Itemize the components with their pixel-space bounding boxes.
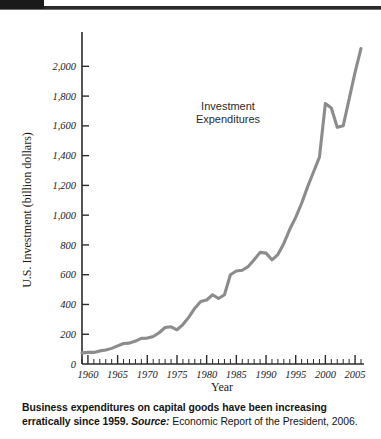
x-tick-label: 1980 xyxy=(196,369,218,380)
top-left-black-block xyxy=(0,0,44,9)
x-tick-label: 1960 xyxy=(77,369,99,380)
y-axis-tick-labels: 02004006008001,0001,2001,4001,6001,8002,… xyxy=(52,61,76,370)
y-axis-ticks xyxy=(82,66,89,334)
series-annotation-line-2: Expenditures xyxy=(196,113,261,125)
x-tick-label: 1965 xyxy=(107,369,128,380)
figure-caption: Business expenditures on capital goods h… xyxy=(22,401,366,428)
x-tick-label: 1970 xyxy=(137,369,159,380)
x-axis-tick-labels: 1960196519701975198019851990199520002005 xyxy=(77,369,365,380)
x-tick-label: 1995 xyxy=(285,369,306,380)
investment-expenditures-line-chart: 02004006008001,0001,2001,4001,6001,8002,… xyxy=(0,10,381,395)
x-tick-label: 2005 xyxy=(345,369,366,380)
data-series-line xyxy=(82,48,361,352)
y-tick-label: 200 xyxy=(60,329,77,340)
y-tick-label: 400 xyxy=(60,299,77,310)
x-tick-label: 1975 xyxy=(166,369,187,380)
x-axis-ticks xyxy=(82,355,361,364)
x-axis-title: Year xyxy=(211,380,233,394)
chart-figure: 02004006008001,0001,2001,4001,6001,8002,… xyxy=(0,10,381,395)
y-tick-label: 600 xyxy=(60,269,77,280)
y-tick-label: 1,400 xyxy=(52,150,76,161)
x-tick-label: 1985 xyxy=(226,369,247,380)
y-axis-title: U.S. Investment (billion dollars) xyxy=(20,132,34,288)
investment-expenditures-line xyxy=(82,48,361,352)
series-annotation-line-1: Investment xyxy=(201,100,255,112)
y-tick-label: 1,600 xyxy=(52,120,76,131)
x-tick-label: 1990 xyxy=(256,369,278,380)
x-tick-label: 2000 xyxy=(315,369,337,380)
y-tick-label: 2,000 xyxy=(52,61,76,72)
y-tick-label: 1,200 xyxy=(52,180,76,191)
caption-source-text: Economic Report of the President, 2006. xyxy=(172,416,357,427)
caption-source-label: Source: xyxy=(131,416,169,427)
y-tick-label: 1,000 xyxy=(52,210,76,221)
y-tick-label: 800 xyxy=(60,240,77,251)
y-tick-label: 0 xyxy=(71,359,77,370)
y-tick-label: 1,800 xyxy=(52,91,76,102)
